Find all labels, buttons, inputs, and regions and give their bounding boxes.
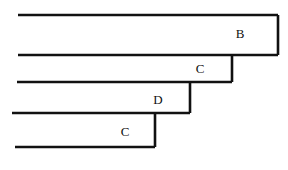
diagram-canvas: BCDC	[0, 0, 288, 170]
diagram-lines-group	[12, 15, 278, 147]
step-diagram-svg	[0, 0, 288, 170]
